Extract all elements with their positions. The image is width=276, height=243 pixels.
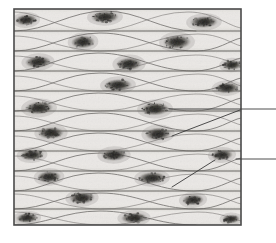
tissue-field: [11, 8, 245, 227]
histology-figure: [0, 0, 276, 243]
paper-grain-overlay: [14, 9, 241, 225]
smooth-muscle-illustration: [0, 0, 276, 243]
